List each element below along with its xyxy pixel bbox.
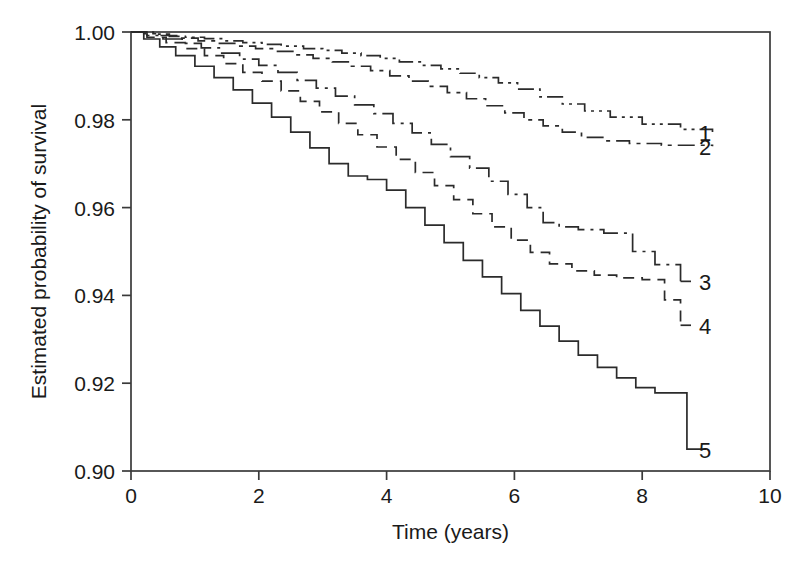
- y-tick-label: 0.96: [74, 197, 115, 220]
- x-tick-label: 10: [758, 484, 781, 507]
- curve-label-4: 4: [699, 314, 711, 339]
- plot-canvas: 02468101.000.980.960.940.920.90Time (yea…: [0, 0, 809, 568]
- y-tick-label: 0.94: [74, 284, 115, 307]
- x-tick-label: 6: [509, 484, 521, 507]
- y-tick-label: 0.92: [74, 372, 115, 395]
- x-tick-label: 8: [636, 484, 648, 507]
- x-tick-label: 2: [253, 484, 265, 507]
- y-tick-label: 0.98: [74, 109, 115, 132]
- survival-curve-2: [131, 32, 712, 146]
- survival-curve-figure: 02468101.000.980.960.940.920.90Time (yea…: [0, 0, 809, 568]
- y-tick-label: 1.00: [74, 21, 115, 44]
- x-axis-title: Time (years): [392, 520, 509, 543]
- curve-label-3: 3: [699, 270, 711, 295]
- curve-label-5: 5: [699, 438, 711, 463]
- curve-label-2: 2: [699, 135, 711, 160]
- x-tick-label: 0: [125, 484, 137, 507]
- x-tick-label: 4: [381, 484, 393, 507]
- survival-curve-5: [131, 32, 706, 449]
- y-tick-label: 0.90: [74, 460, 115, 483]
- plot-frame: [131, 32, 770, 471]
- y-axis-title: Estimated probability of survival: [27, 104, 50, 399]
